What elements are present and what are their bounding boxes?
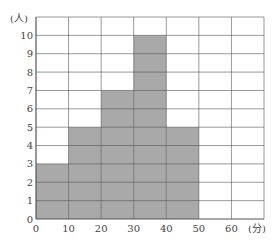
histogram-bar [101,90,134,219]
y-axis-label: (人) [10,13,28,24]
x-tick-label: 50 [192,223,205,234]
x-axis-ticks: 0102030405060 [33,223,238,234]
x-tick-label: 40 [160,223,173,234]
y-tick-label: 4 [27,140,33,151]
y-axis-ticks: 012345678910 [20,30,33,225]
y-tick-label: 6 [27,103,33,114]
histogram-bar [166,127,199,219]
histogram-bar [36,164,69,219]
y-tick-label: 9 [27,48,33,59]
y-tick-label: 7 [27,85,33,96]
y-tick-label: 10 [20,30,33,41]
x-tick-label: 0 [33,223,39,234]
y-tick-label: 8 [27,67,33,78]
histogram-chart: 012345678910 0102030405060 (人) (分) [0,0,278,249]
x-tick-label: 10 [62,223,75,234]
x-tick-label: 20 [95,223,108,234]
x-axis-label: (分) [248,223,266,234]
y-tick-label: 3 [27,158,33,169]
y-tick-label: 1 [27,195,33,206]
y-tick-label: 2 [27,177,33,188]
y-tick-label: 5 [27,122,33,133]
x-tick-label: 30 [127,223,140,234]
x-tick-label: 60 [225,223,238,234]
histogram-bar [69,127,102,219]
